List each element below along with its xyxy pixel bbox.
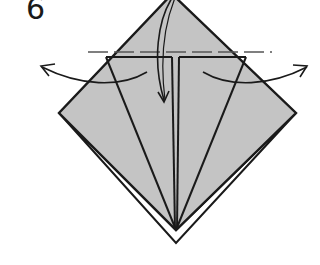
origami-figure bbox=[0, 0, 320, 265]
origami-diagram-step: 6 bbox=[0, 0, 320, 265]
